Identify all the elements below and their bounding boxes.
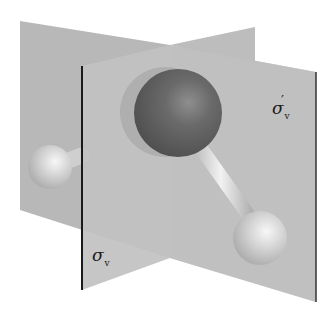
hydrogen-atom-right bbox=[233, 211, 287, 265]
prime-mark: ′ bbox=[281, 94, 284, 107]
subscript: v bbox=[285, 111, 290, 121]
oxygen-atom bbox=[134, 69, 222, 157]
symmetry-diagram: σv σ′v bbox=[0, 0, 330, 318]
hydrogen-atom-left bbox=[28, 145, 72, 189]
subscript: v bbox=[105, 258, 110, 268]
label-sigma-v-prime: σ′v bbox=[272, 100, 289, 117]
mirror-planes-illustration bbox=[0, 0, 330, 318]
sigma-symbol: σ bbox=[92, 245, 104, 265]
label-sigma-v: σv bbox=[92, 247, 109, 264]
